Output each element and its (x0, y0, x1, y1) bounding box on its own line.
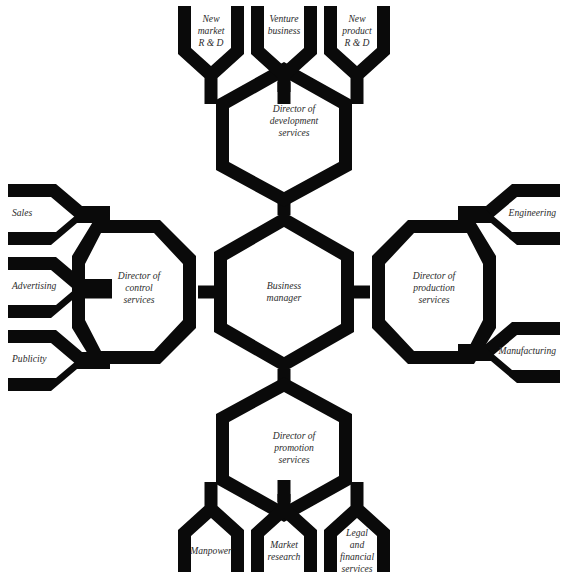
leaf-left-sales-label: Sales (12, 207, 33, 218)
center-stub-left (198, 286, 216, 299)
leaf-top-new-product-rd-line3: R & D (343, 37, 369, 48)
leaf-bottom-market-research-line2: research (268, 551, 301, 562)
org-chart-figure: Business manager Director of development… (0, 0, 568, 576)
leaf-top-new-market-rd-line2: market (198, 25, 225, 36)
leaf-bottom-legal-financial-line3: financial (340, 551, 374, 562)
right-director-label-line2: production (412, 282, 455, 293)
leaf-top-new-product-rd-line2: product (341, 25, 372, 36)
leaf-top-venture-business-line1: Venture (270, 13, 300, 24)
top-director-label-line1: Director of (272, 103, 317, 114)
leaf-top-new-market-rd-line1: New (201, 13, 220, 24)
org-chart-canvas: Business manager Director of development… (0, 0, 568, 576)
bottom-director-label-line3: services (279, 454, 310, 465)
center-label-line1: Business (267, 280, 301, 291)
bottom-director-label-line2: promotion (273, 442, 314, 453)
left-director-label-line3: services (124, 294, 155, 305)
top-director-label-line3: services (279, 127, 310, 138)
left-director-label-line2: control (125, 282, 153, 293)
left-director-label-line1: Director of (117, 270, 162, 281)
right-director-label-line1: Director of (412, 270, 457, 281)
right-director-label-line3: services (419, 294, 450, 305)
center-label-line2: manager (267, 292, 302, 303)
top-director-label-line2: development (270, 115, 319, 126)
leaf-bottom-legal-financial-line2: and (350, 539, 365, 550)
leaf-right-manufacturing-label: Manufacturing (497, 345, 556, 356)
leaf-top-new-market-rd-line3: R & D (197, 37, 223, 48)
center-stub-right (352, 286, 370, 299)
bottom-director-label-line1: Director of (272, 430, 317, 441)
leaf-bottom-market-research-line1: Market (269, 539, 298, 550)
leaf-left-advertising-label: Advertising (11, 280, 56, 291)
leaf-bottom-manpower-line1: Manpower (189, 545, 232, 556)
figure-caption (0, 566, 568, 576)
leaf-top-new-product-rd-line1: New (347, 13, 366, 24)
leaf-left-publicity-label: Publicity (11, 353, 47, 364)
leaf-top-venture-business-line2: business (268, 25, 301, 36)
leaf-bottom-legal-financial-line1: Legal (345, 527, 368, 538)
leaf-right-engineering-label: Engineering (508, 207, 557, 218)
